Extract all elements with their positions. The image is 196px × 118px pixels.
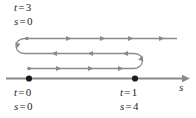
top-segment-arrow-2 <box>100 36 106 41</box>
bottom-segment-arrow-3 <box>118 66 124 71</box>
label-bottom-left-s-num: 0 <box>27 100 33 112</box>
label-bottom-left-s-eq: = <box>18 100 26 112</box>
label-top-s: s=0 <box>14 15 33 28</box>
top-segment-start-marker <box>25 37 29 41</box>
middle-segment-arrow-1 <box>123 51 129 56</box>
label-top-s-num: 0 <box>27 15 33 27</box>
bottom-segment-start-marker <box>27 67 31 71</box>
top-segment-arrow-3 <box>128 36 134 41</box>
bottom-segment-group <box>27 66 133 71</box>
top-segment-group <box>25 36 177 41</box>
right-uturn-group <box>133 54 143 69</box>
middle-segment-group <box>25 51 134 56</box>
label-bottom-right-t-eq: = <box>123 86 131 98</box>
label-bottom-left-t-num: 0 <box>26 86 32 98</box>
middle-segment-arrow-2 <box>88 51 94 56</box>
middle-segment-arrow-3 <box>52 51 58 56</box>
label-bottom-right-t-num: 1 <box>132 86 138 98</box>
s-axis-variable-label: s <box>179 81 183 93</box>
left-uturn-group <box>15 39 25 54</box>
s-axis-group <box>6 75 190 82</box>
label-top-t-eq: = <box>17 1 25 13</box>
top-segment-arrow-4 <box>159 36 165 41</box>
label-bottom-right-s: s=4 <box>120 100 139 113</box>
turning-point-dot <box>132 75 138 81</box>
label-top-s-eq: = <box>18 15 26 27</box>
right-uturn-path <box>133 54 143 69</box>
bottom-segment-arrow-2 <box>88 66 94 71</box>
label-top-t: t=3 <box>14 1 31 14</box>
bottom-segment-arrow-1 <box>56 66 62 71</box>
label-bottom-left-t: t=0 <box>14 86 31 99</box>
label-bottom-left-s: s=0 <box>14 100 33 113</box>
label-bottom-right-t: t=1 <box>120 86 137 99</box>
start-point-dot <box>26 75 32 81</box>
top-segment-arrow-1 <box>66 36 72 41</box>
label-top-t-num: 3 <box>26 1 32 13</box>
motion-diagram-figure: t=3 s=0 t=0 s=0 t=1 s=4 s <box>0 0 196 118</box>
label-bottom-left-t-eq: = <box>17 86 25 98</box>
label-bottom-right-s-num: 4 <box>133 100 139 112</box>
label-bottom-right-s-eq: = <box>124 100 132 112</box>
